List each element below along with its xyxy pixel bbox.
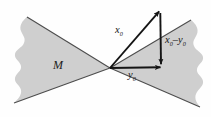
cone-decomposition-figure: M x0 y0 x0–y0 [0,0,211,117]
vector-y0-arrow [110,67,161,68]
label-vector-x0: x0 [114,24,124,37]
vector-x0-minus-y0-arrow [160,13,161,64]
label-set-m: M [52,58,64,72]
right-cone-region [110,20,203,107]
diagram-canvas: M x0 y0 x0–y0 [0,0,211,117]
right-cone-shape [110,20,203,107]
